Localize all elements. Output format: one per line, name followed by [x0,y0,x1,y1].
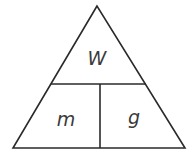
label-bottom-left-m: m [57,108,76,130]
formula-triangle: W m g [0,0,192,154]
label-bottom-right-g: g [128,106,140,128]
triangle-outline [13,6,185,148]
label-top-w: W [88,47,108,69]
